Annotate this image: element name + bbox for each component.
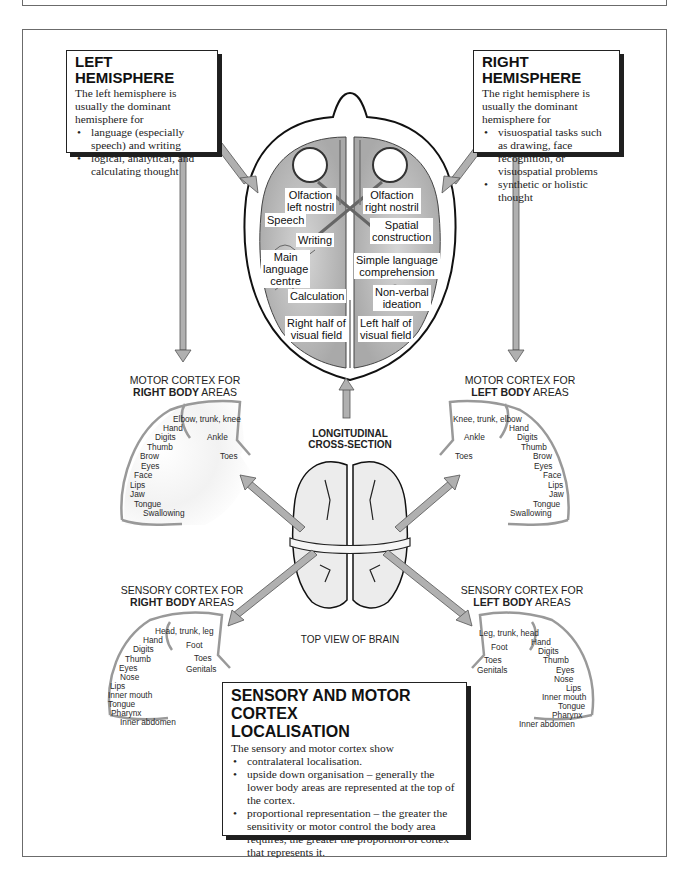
region-text: Left half of [360, 317, 411, 329]
region-text: right nostril [365, 201, 419, 213]
region-text: left nostril [287, 201, 334, 213]
title-bold: LEFT BODY [473, 596, 533, 608]
motor-label: Brow [533, 452, 552, 461]
region-text: comprehension [356, 266, 438, 278]
region-text: language [263, 263, 308, 275]
right-hemisphere-box: RIGHT HEMISPHERE The right hemisphere is… [473, 50, 620, 153]
top-view-caption: TOP VIEW OF BRAIN [290, 634, 410, 645]
sensory-label: Toes [194, 654, 212, 663]
localisation-box: SENSORY AND MOTOR CORTEX LOCALISATION Th… [222, 682, 467, 836]
title-line: LEFT BODY AREAS [440, 386, 600, 398]
title-rest: AREAS [199, 386, 237, 398]
cross-section-caption: LONGITUDINAL CROSS-SECTION [290, 428, 410, 450]
region-non-verbal-ideation: Non-verbal ideation [373, 285, 431, 311]
region-text: Olfaction [287, 189, 334, 201]
motor-label: Toes [220, 452, 238, 461]
region-text: visual field [360, 329, 411, 341]
region-text: Simple language [356, 254, 438, 266]
motor-right-title: MOTOR CORTEX FOR RIGHT BODY AREAS [105, 374, 265, 398]
region-writing: Writing [296, 233, 334, 247]
title-line: SENSORY CORTEX FOR [102, 584, 262, 596]
top-view-brain [290, 462, 410, 608]
left-hemisphere-title: LEFT HEMISPHERE [75, 54, 211, 86]
motor-label: Digits [155, 433, 176, 442]
localisation-intro: The sensory and motor cortex show [231, 742, 458, 755]
region-left-visual-field: Left half of visual field [358, 316, 413, 342]
sensory-label: Thumb [543, 656, 569, 665]
motor-label: Elbow, trunk, knee [173, 415, 241, 424]
right-hemisphere-title: RIGHT HEMISPHERE [482, 54, 613, 86]
list-item: logical, analytical, and calculating tho… [75, 152, 211, 178]
sensory-label: Inner abdomen [519, 720, 575, 729]
list-item: upside down organisation – generally the… [231, 768, 458, 807]
title-bold: RIGHT BODY [130, 596, 196, 608]
caption-line: CROSS-SECTION [290, 439, 410, 450]
title-line: LEFT BODY AREAS [442, 596, 602, 608]
motor-label: Swallowing [143, 509, 185, 518]
region-main-language-centre: Main language centre [261, 250, 310, 288]
region-text: Olfaction [365, 189, 419, 201]
region-text: Main [263, 251, 308, 263]
sensory-right-title: SENSORY CORTEX FOR RIGHT BODY AREAS [102, 584, 262, 608]
region-simple-language-comprehension: Simple language comprehension [354, 253, 440, 279]
list-item: language (especially speech) and writing [75, 126, 211, 152]
motor-label: Jaw [130, 490, 145, 499]
sensory-label: Leg, trunk, head [479, 629, 539, 638]
title-rest: AREAS [196, 596, 234, 608]
sensory-label: Toes [484, 656, 502, 665]
title-line: SENSORY CORTEX FOR [442, 584, 602, 596]
region-calculation: Calculation [288, 289, 346, 303]
motor-label: Digits [517, 433, 538, 442]
sensory-left-title: SENSORY CORTEX FOR LEFT BODY AREAS [442, 584, 602, 608]
sensory-label: Head, trunk, leg [155, 627, 214, 636]
sensory-label: Inner abdomen [120, 718, 176, 727]
motor-label: Toes [455, 452, 473, 461]
sensory-label: Digits [133, 645, 154, 654]
region-text: Non-verbal [375, 286, 429, 298]
motor-label: Brow [140, 452, 159, 461]
motor-label: Jaw [549, 490, 564, 499]
title-rest: AREAS [531, 386, 569, 398]
right-hemisphere-intro: The right hemisphere is usually the domi… [482, 87, 613, 126]
list-item: contralateral localisation. [231, 755, 458, 768]
arrow-left-hemisphere-to-brain [216, 143, 258, 193]
title-line: RIGHT BODY AREAS [102, 596, 262, 608]
sensory-label: Genitals [186, 665, 216, 674]
motor-label: Face [543, 471, 561, 480]
region-speech: Speech [265, 213, 306, 227]
arrow-left-hemisphere-to-motor-right [175, 150, 191, 362]
title-line: MOTOR CORTEX FOR [105, 374, 265, 386]
motor-label: Ankle [464, 433, 485, 442]
title-line: MOTOR CORTEX FOR [440, 374, 600, 386]
region-text: construction [372, 231, 431, 243]
localisation-list: contralateral localisation. upside down … [231, 755, 458, 859]
left-hemisphere-box: LEFT HEMISPHERE The left hemisphere is u… [66, 50, 218, 153]
sensory-label: Foot [186, 641, 203, 650]
arrow-to-cross-section [339, 378, 354, 418]
list-item: synthetic or holistic thought [482, 178, 613, 204]
motor-left-title: MOTOR CORTEX FOR LEFT BODY AREAS [440, 374, 600, 398]
left-hemisphere-intro: The left hemisphere is usually the domin… [75, 87, 211, 126]
region-right-visual-field: Right half of visual field [285, 316, 348, 342]
title-line: RIGHT BODY AREAS [105, 386, 265, 398]
region-spatial-construction: Spatial construction [370, 218, 433, 244]
localisation-title-line2: LOCALISATION [231, 723, 458, 741]
motor-label: Face [134, 471, 152, 480]
right-hemisphere-list: visuospatial tasks such as drawing, face… [482, 126, 613, 204]
motor-label: Ankle [207, 433, 228, 442]
title-rest: AREAS [533, 596, 571, 608]
region-text: centre [263, 275, 308, 287]
motor-label: Swallowing [510, 509, 552, 518]
title-bold: RIGHT BODY [133, 386, 199, 398]
left-hemisphere-list: language (especially speech) and writing… [75, 126, 211, 178]
region-text: visual field [287, 329, 346, 341]
region-text: Spatial [372, 219, 431, 231]
sensory-label: Genitals [477, 666, 507, 675]
title-bold: LEFT BODY [471, 386, 531, 398]
list-item: proportional representation – the greate… [231, 807, 458, 859]
region-text: Right half of [287, 317, 346, 329]
caption-line: LONGITUDINAL [290, 428, 410, 439]
list-item: visuospatial tasks such as drawing, face… [482, 126, 613, 178]
region-olfaction-right: Olfaction right nostril [363, 188, 421, 214]
localisation-title-line1: SENSORY AND MOTOR CORTEX [231, 687, 458, 723]
